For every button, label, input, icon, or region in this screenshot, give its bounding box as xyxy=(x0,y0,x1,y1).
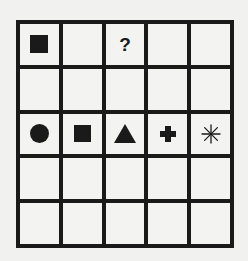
puzzle-grid: ? xyxy=(16,20,234,248)
asterisk-icon xyxy=(201,124,221,144)
plus-icon xyxy=(159,125,177,143)
cell-r5-c3[interactable] xyxy=(106,203,145,244)
cell-r5-c1[interactable] xyxy=(20,203,59,244)
cell-r1-c5[interactable] xyxy=(191,24,230,65)
cell-r2-c1[interactable] xyxy=(20,69,59,110)
cell-r4-c2[interactable] xyxy=(63,158,102,199)
cell-r5-c4[interactable] xyxy=(148,203,187,244)
cell-r1-c3[interactable]: ? xyxy=(106,24,145,65)
cell-r4-c4[interactable] xyxy=(148,158,187,199)
filled-square-icon xyxy=(30,35,48,53)
cell-r2-c2[interactable] xyxy=(63,69,102,110)
cell-r3-c4[interactable] xyxy=(148,114,187,155)
filled-circle-icon xyxy=(30,124,49,143)
filled-square-icon xyxy=(74,125,91,142)
cell-r2-c5[interactable] xyxy=(191,69,230,110)
question-mark: ? xyxy=(119,35,131,54)
cell-r4-c1[interactable] xyxy=(20,158,59,199)
cell-r3-c3[interactable] xyxy=(106,114,145,155)
cell-r3-c2[interactable] xyxy=(63,114,102,155)
cell-r1-c1[interactable] xyxy=(20,24,59,65)
cell-r3-c1[interactable] xyxy=(20,114,59,155)
cell-r3-c5[interactable] xyxy=(191,114,230,155)
cell-r5-c5[interactable] xyxy=(191,203,230,244)
filled-triangle-icon xyxy=(114,124,136,143)
cell-r1-c4[interactable] xyxy=(148,24,187,65)
cell-r2-c3[interactable] xyxy=(106,69,145,110)
cell-r4-c5[interactable] xyxy=(191,158,230,199)
cell-r4-c3[interactable] xyxy=(106,158,145,199)
cell-r2-c4[interactable] xyxy=(148,69,187,110)
cell-r5-c2[interactable] xyxy=(63,203,102,244)
cell-r1-c2[interactable] xyxy=(63,24,102,65)
